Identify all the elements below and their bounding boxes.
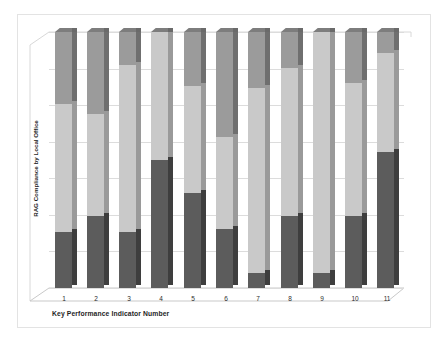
bar-segment-red[interactable] bbox=[377, 152, 394, 288]
bar-front-face bbox=[184, 32, 201, 288]
bar-segment-red[interactable] bbox=[313, 273, 330, 288]
x-axis-tick-label: 6 bbox=[216, 295, 236, 302]
bar-side-segment bbox=[394, 29, 399, 49]
bar-side-segment bbox=[72, 101, 77, 229]
bar-segment-red[interactable] bbox=[281, 216, 298, 288]
bar-segment-red[interactable] bbox=[216, 229, 233, 288]
x-axis-tick-label: 9 bbox=[312, 295, 332, 302]
bar-side-face bbox=[298, 29, 303, 285]
bar-column[interactable] bbox=[87, 32, 104, 288]
bar-segment-red[interactable] bbox=[184, 193, 201, 288]
bar-segment-red[interactable] bbox=[87, 216, 104, 288]
y-axis-title: RAG Compliance by Local Office bbox=[32, 99, 39, 239]
bar-top-cap-right bbox=[233, 28, 238, 32]
bar-side-segment bbox=[104, 111, 109, 213]
x-axis-tick-label: 10 bbox=[345, 295, 365, 302]
bar-side-segment bbox=[104, 29, 109, 111]
bar-column[interactable] bbox=[151, 32, 168, 288]
bar-front-face bbox=[119, 32, 136, 288]
bar-segment-amber[interactable] bbox=[313, 32, 330, 273]
x-axis-tick-label: 7 bbox=[248, 295, 268, 302]
bar-side-segment bbox=[136, 29, 141, 62]
bar-segment-green[interactable] bbox=[216, 32, 233, 137]
bar-segment-green[interactable] bbox=[345, 32, 362, 83]
bar-segment-green[interactable] bbox=[119, 32, 136, 65]
bar-segment-green[interactable] bbox=[87, 32, 104, 114]
bar-side-face bbox=[233, 29, 238, 285]
bar-segment-amber[interactable] bbox=[281, 68, 298, 216]
bar-side-segment bbox=[233, 226, 238, 285]
bar-column[interactable] bbox=[313, 32, 330, 288]
bar-side-face bbox=[168, 29, 173, 285]
bar-side-segment bbox=[168, 157, 173, 285]
bar-segment-green[interactable] bbox=[184, 32, 201, 86]
bar-top-cap-right bbox=[72, 28, 77, 32]
bar-segment-amber[interactable] bbox=[55, 104, 72, 232]
bar-top-cap-right bbox=[136, 28, 141, 32]
bar-front-face bbox=[87, 32, 104, 288]
bar-front-face bbox=[216, 32, 233, 288]
bar-top-cap-right bbox=[394, 28, 399, 32]
x-axis-tick-label: 3 bbox=[119, 295, 139, 302]
bar-column[interactable] bbox=[281, 32, 298, 288]
bar-segment-red[interactable] bbox=[345, 216, 362, 288]
bar-column[interactable] bbox=[216, 32, 233, 288]
bar-segment-red[interactable] bbox=[151, 160, 168, 288]
bar-column[interactable] bbox=[345, 32, 362, 288]
bar-side-segment bbox=[394, 50, 399, 150]
bar-column[interactable] bbox=[184, 32, 201, 288]
bar-side-segment bbox=[265, 270, 270, 285]
bar-segment-amber[interactable] bbox=[216, 137, 233, 229]
bar-top-cap-right bbox=[104, 28, 109, 32]
bar-top-cap-right bbox=[330, 28, 335, 32]
bar-segment-amber[interactable] bbox=[151, 32, 168, 160]
bar-segment-green[interactable] bbox=[281, 32, 298, 68]
bar-column[interactable] bbox=[248, 32, 265, 288]
bar-front-face bbox=[248, 32, 265, 288]
bar-side-face bbox=[330, 29, 335, 285]
x-axis-tick-label: 4 bbox=[151, 295, 171, 302]
bar-side-segment bbox=[362, 80, 367, 213]
bar-side-segment bbox=[72, 229, 77, 285]
plot-area bbox=[49, 32, 404, 288]
chart-frame: 1234567891011 Key Performance Indicator … bbox=[17, 14, 431, 328]
bar-side-segment bbox=[168, 29, 173, 157]
bar-side-segment bbox=[362, 213, 367, 285]
bar-segment-red[interactable] bbox=[248, 273, 265, 288]
bar-side-segment bbox=[136, 62, 141, 228]
bar-side-face bbox=[394, 29, 399, 285]
bar-column[interactable] bbox=[55, 32, 72, 288]
bar-segment-amber[interactable] bbox=[184, 86, 201, 194]
chart-3d-scene: 1234567891011 Key Performance Indicator … bbox=[18, 15, 432, 329]
bar-side-segment bbox=[201, 83, 206, 191]
bar-front-face bbox=[345, 32, 362, 288]
bar-front-face bbox=[151, 32, 168, 288]
bar-segment-green[interactable] bbox=[377, 32, 394, 52]
bar-side-segment bbox=[298, 29, 303, 65]
bar-side-segment bbox=[394, 149, 399, 285]
bar-segment-red[interactable] bbox=[55, 232, 72, 288]
bar-segment-amber[interactable] bbox=[248, 88, 265, 272]
bar-side-segment bbox=[298, 213, 303, 285]
bar-side-segment bbox=[201, 29, 206, 83]
bar-segment-amber[interactable] bbox=[87, 114, 104, 216]
bar-segment-green[interactable] bbox=[55, 32, 72, 104]
gridline bbox=[49, 288, 404, 289]
bar-column[interactable] bbox=[377, 32, 394, 288]
x-axis-tick-label: 8 bbox=[280, 295, 300, 302]
bar-side-face bbox=[362, 29, 367, 285]
bar-segment-green[interactable] bbox=[248, 32, 265, 88]
bar-side-face bbox=[72, 29, 77, 285]
bar-segment-red[interactable] bbox=[119, 232, 136, 288]
bar-side-segment bbox=[265, 85, 270, 269]
bar-side-face bbox=[136, 29, 141, 285]
bar-column[interactable] bbox=[119, 32, 136, 288]
x-axis-tick-labels: 1234567891011 bbox=[49, 295, 404, 307]
bar-side-segment bbox=[201, 190, 206, 285]
bar-segment-amber[interactable] bbox=[119, 65, 136, 231]
bar-top-cap-right bbox=[298, 28, 303, 32]
bar-segment-amber[interactable] bbox=[345, 83, 362, 216]
bar-segment-amber[interactable] bbox=[377, 53, 394, 153]
x-axis-title: Key Performance Indicator Number bbox=[52, 310, 169, 317]
bar-top-cap-right bbox=[168, 28, 173, 32]
